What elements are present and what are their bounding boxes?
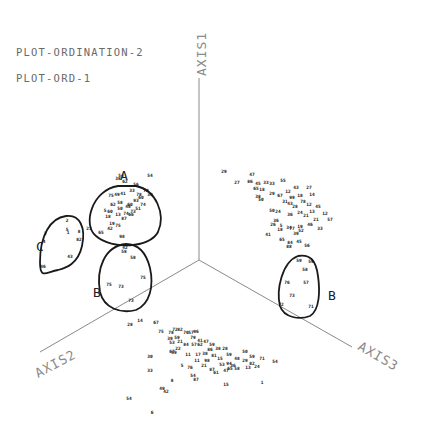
data-point: 3 bbox=[44, 231, 47, 236]
data-point: 18 bbox=[297, 193, 303, 198]
data-point: 1 bbox=[67, 230, 70, 235]
data-point: 27 bbox=[306, 185, 312, 190]
data-point: 14 bbox=[309, 192, 315, 197]
data-point: 59 bbox=[226, 352, 232, 357]
data-point: 28 bbox=[222, 346, 228, 351]
data-point: 38 bbox=[115, 176, 121, 181]
data-point: 29 bbox=[221, 169, 227, 174]
data-point: 21 bbox=[303, 213, 309, 218]
data-point: 38 bbox=[202, 351, 208, 356]
axis-labels: AXIS1AXIS2AXIS3 bbox=[32, 32, 401, 381]
data-point: 73 bbox=[289, 293, 295, 298]
data-point: 18 bbox=[105, 214, 111, 219]
data-point: 87 bbox=[121, 216, 127, 221]
data-point: 65 bbox=[279, 237, 285, 242]
cluster-outline-C bbox=[40, 216, 83, 274]
data-point: 72 bbox=[278, 302, 284, 307]
data-point: 86 bbox=[247, 179, 253, 184]
cluster-label-B-right: B bbox=[328, 288, 336, 303]
data-point: 71 bbox=[308, 304, 314, 309]
data-point: 67 bbox=[277, 193, 283, 198]
cluster-label-B-left: B bbox=[93, 285, 101, 300]
data-point: 47 bbox=[249, 172, 255, 177]
data-point: 58 bbox=[117, 200, 123, 205]
data-point: 62 bbox=[197, 342, 203, 347]
data-point: 58 bbox=[130, 255, 136, 260]
data-point: 82 bbox=[76, 237, 82, 242]
data-point: 33 bbox=[147, 368, 153, 373]
data-point: 5 bbox=[280, 223, 283, 228]
data-point: 45 bbox=[296, 239, 302, 244]
axis2-label: AXIS2 bbox=[32, 347, 78, 381]
data-point: 41 bbox=[265, 232, 271, 237]
data-point: 49 bbox=[114, 192, 120, 197]
plot-canvas: ABCB 54565475494158606074738756013745138… bbox=[0, 0, 423, 430]
data-point: 58 bbox=[302, 267, 308, 272]
data-point: 27 bbox=[234, 180, 240, 185]
data-point: 75 bbox=[106, 282, 112, 287]
data-point: 46 bbox=[307, 222, 313, 227]
data-point: 43 bbox=[293, 185, 299, 190]
data-point: 65 bbox=[98, 230, 104, 235]
data-point: 17 bbox=[195, 352, 201, 357]
data-point: 78 bbox=[136, 192, 142, 197]
data-point: 50 bbox=[269, 208, 275, 213]
data-point: 15 bbox=[217, 356, 223, 361]
data-point: 65 bbox=[253, 186, 259, 191]
data-point: 24 bbox=[275, 209, 281, 214]
axis3-label: AXIS3 bbox=[356, 339, 402, 374]
data-point: 12 bbox=[322, 211, 328, 216]
data-point: 36 bbox=[287, 212, 293, 217]
data-point: 51 bbox=[135, 206, 141, 211]
data-point: 33 bbox=[129, 188, 135, 193]
data-point: 98 bbox=[119, 234, 125, 239]
data-point: 24 bbox=[297, 210, 303, 215]
data-point: 76 bbox=[284, 280, 290, 285]
data-point: 57 bbox=[191, 342, 197, 347]
data-point: 50 bbox=[242, 349, 248, 354]
data-point: 96 bbox=[193, 329, 199, 334]
data-point: 54 bbox=[126, 396, 132, 401]
data-point: 67 bbox=[153, 320, 159, 325]
data-point: 82 bbox=[177, 327, 183, 332]
data-point: 30 bbox=[147, 354, 153, 359]
data-point: 75 bbox=[108, 193, 114, 198]
data-point: 48 bbox=[234, 356, 240, 361]
data-point: 33 bbox=[317, 226, 323, 231]
data-point: 29 bbox=[269, 191, 275, 196]
data-point: 84 bbox=[287, 240, 293, 245]
data-point: 6 bbox=[151, 410, 154, 415]
data-point: 42 bbox=[107, 226, 113, 231]
data-point: 86 bbox=[207, 347, 213, 352]
data-point: 52 bbox=[298, 228, 304, 233]
data-point: 87 bbox=[193, 377, 199, 382]
data-point: 43 bbox=[67, 254, 73, 259]
data-point: 59 bbox=[296, 258, 302, 263]
point-group-axis1-axis2-plane: 5456547549415860607473875601374513862337… bbox=[40, 173, 153, 303]
data-point: 54 bbox=[147, 173, 153, 178]
data-point: 65 bbox=[227, 366, 233, 371]
data-point: 55 bbox=[280, 178, 286, 183]
data-point: 5 bbox=[181, 363, 184, 368]
data-point: 33 bbox=[269, 181, 275, 186]
data-point: 73 bbox=[128, 298, 134, 303]
data-point: 13 bbox=[245, 365, 251, 370]
data-point: 74 bbox=[140, 202, 146, 207]
data-point: 81 bbox=[211, 353, 217, 358]
point-group-axis1-axis3-plane: 2947278645333355651838296712439918271431… bbox=[221, 169, 333, 309]
data-point: 18 bbox=[259, 187, 265, 192]
point-group-axis2-axis3-plane: 2867757872827057963959217941538457624759… bbox=[126, 318, 278, 415]
data-point: 28 bbox=[127, 322, 133, 327]
data-point: 56 bbox=[304, 243, 310, 248]
data-point: 76 bbox=[187, 365, 193, 370]
data-point: 53 bbox=[169, 340, 175, 345]
data-point: 99 bbox=[289, 195, 295, 200]
data-point: 59 bbox=[308, 259, 314, 264]
data-point: 93 bbox=[133, 198, 139, 203]
data-point: 22 bbox=[175, 346, 181, 351]
data-point: 28 bbox=[292, 204, 298, 209]
data-point: 29 bbox=[242, 358, 248, 363]
data-point: 53 bbox=[219, 362, 225, 367]
axis3-line bbox=[199, 260, 352, 347]
data-point: 5 bbox=[104, 208, 107, 213]
